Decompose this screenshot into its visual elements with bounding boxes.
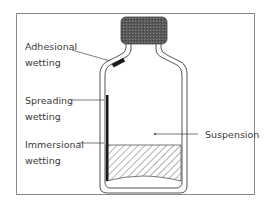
spreading-wetting-bar	[106, 95, 109, 145]
label-immersional: Immersional wetting	[25, 138, 84, 167]
label-adhesional: Adhesional wetting	[25, 40, 77, 69]
suspension-region	[106, 145, 181, 181]
cap-icon	[121, 17, 167, 44]
label-suspension: Suspension	[205, 128, 259, 141]
label-spreading: Spreading wetting	[25, 94, 73, 123]
immersional-wetting-bar	[106, 145, 109, 181]
